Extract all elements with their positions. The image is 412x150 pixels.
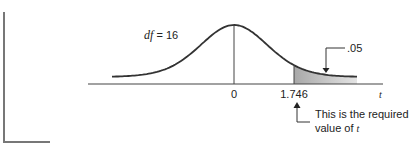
left-bracket: [4, 12, 50, 142]
axis-label-t: t: [379, 89, 382, 100]
tail-area-arrow-icon: [323, 68, 330, 73]
df-label: df = 16: [144, 28, 178, 42]
tick-label-critical: 1.746: [280, 88, 308, 100]
required-value-arrow-icon: [294, 102, 301, 108]
annotation-line-1: This is the required: [315, 108, 409, 120]
tail-area-label: .05: [347, 42, 362, 54]
tick-label-0: 0: [231, 88, 237, 100]
tail-area-callout-line: [326, 48, 345, 70]
annotation-line-2: value of t: [315, 122, 360, 134]
t-distribution-diagram: .05 df = 16 0 1.746 t This is the requir…: [0, 0, 412, 150]
